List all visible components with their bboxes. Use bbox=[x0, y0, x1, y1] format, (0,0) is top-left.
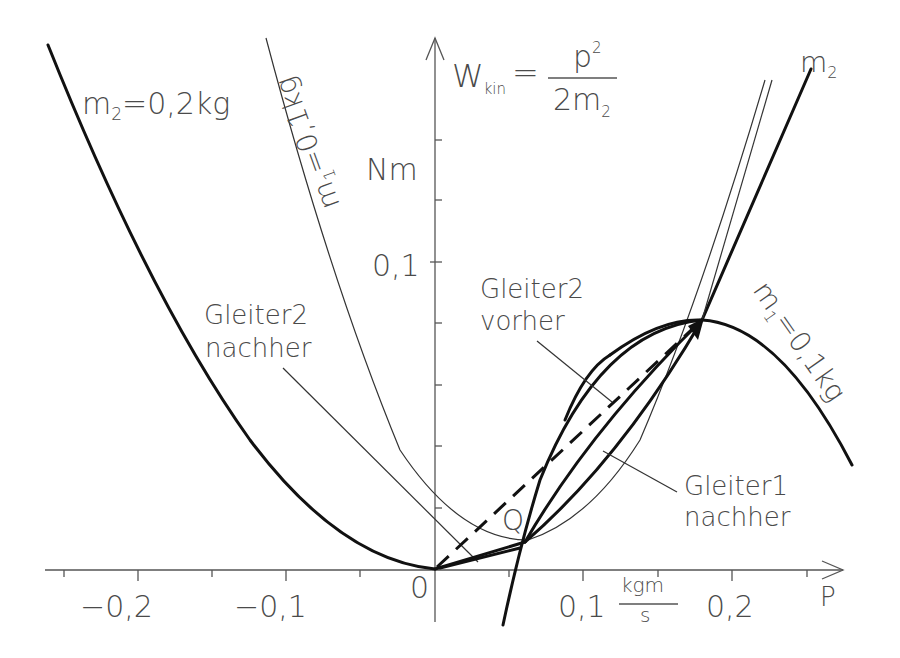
dashed-line-o-top bbox=[437, 320, 702, 567]
label-gleiter1-nachher-2: nachher bbox=[684, 502, 791, 532]
y-axis bbox=[426, 38, 444, 622]
x-unit-fraction: kgm s bbox=[619, 573, 678, 627]
curve-m1-inverted-left bbox=[565, 355, 610, 420]
svg-text:s: s bbox=[640, 603, 650, 627]
leader-gleiter1-nachher bbox=[603, 451, 677, 492]
label-gleiter2-nachher-1: Gleiter2 bbox=[204, 300, 308, 330]
label-x-tick-0-2: 0,2 bbox=[706, 589, 754, 624]
label-x-origin: 0 bbox=[410, 570, 429, 605]
label-m2-curve: m2=0,2kg bbox=[82, 86, 230, 124]
label-gleiter2-vorher-2: vorher bbox=[480, 306, 565, 336]
svg-text:Wkin: Wkin bbox=[452, 57, 506, 98]
label-m2-top: m2 bbox=[800, 46, 837, 82]
energy-momentum-diagram: m2=0,2kg m1=0,1kg m1=0,1kg m2 Wkin = p2 … bbox=[0, 0, 900, 658]
svg-text:2m2: 2m2 bbox=[553, 82, 611, 121]
x-axis bbox=[45, 561, 843, 581]
leader-gleiter2-nachher bbox=[283, 368, 478, 562]
label-gleiter1-nachher-1: Gleiter1 bbox=[684, 471, 788, 501]
svg-text:p2: p2 bbox=[573, 39, 602, 74]
svg-text:=: = bbox=[512, 53, 539, 91]
label-y-tick-0-1: 0,1 bbox=[372, 248, 420, 283]
label-gleiter2-vorher-1: Gleiter2 bbox=[480, 274, 584, 304]
svg-text:kgm: kgm bbox=[621, 573, 664, 597]
formula-wkin: Wkin = p2 2m2 bbox=[452, 39, 617, 121]
label-point-q: Q bbox=[502, 504, 524, 537]
chord-o-q-thick-2 bbox=[440, 548, 520, 568]
label-x-tick-0-1: 0,1 bbox=[558, 589, 606, 624]
label-y-unit: Nm bbox=[366, 152, 418, 187]
label-x-tick-neg-0-1: −0,1 bbox=[234, 589, 307, 624]
label-gleiter2-nachher-2: nachher bbox=[205, 333, 312, 363]
leader-gleiter2-vorher bbox=[537, 341, 612, 402]
label-m1-rotated: m1=0,1kg bbox=[268, 71, 349, 213]
label-x-tick-neg-0-2: −0,2 bbox=[80, 589, 153, 624]
label-x-axis-p: P bbox=[820, 582, 836, 612]
